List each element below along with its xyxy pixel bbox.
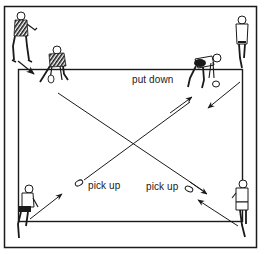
player-top-left-crouching (40, 46, 68, 83)
ring-object-left (74, 179, 83, 187)
ring-object-right (184, 185, 193, 193)
label-put-down: put down (132, 74, 173, 85)
path-diagonal-bl-tr (84, 102, 190, 180)
ring-object-put-down (213, 81, 220, 87)
path-diagonal-tl-br (58, 93, 205, 192)
player-top-right-bending (188, 54, 221, 88)
player-bottom-right-runner (232, 180, 248, 237)
arrow-tl-start (18, 61, 34, 74)
arrow-bl-to-pickup (30, 194, 62, 219)
arrow-to-put-down (170, 97, 192, 113)
label-pick-up-left: pick up (88, 180, 120, 191)
drill-diagram (0, 0, 265, 254)
player-bottom-left-runner (18, 185, 38, 238)
outer-frame (5, 7, 257, 248)
label-pick-up-right: pick up (146, 181, 178, 192)
player-top-left-standing (12, 12, 37, 62)
player-top-right-standing (236, 16, 248, 68)
